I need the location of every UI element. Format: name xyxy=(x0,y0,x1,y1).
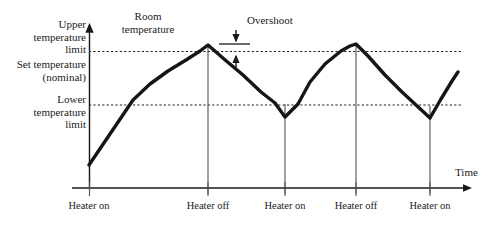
x-tick-label-5: Heater on xyxy=(409,200,450,213)
x-tick-label-2: Heater off xyxy=(187,200,230,213)
set-temperature-label: Set temperature (nominal) xyxy=(0,58,86,83)
upper-limit-line-3: limit xyxy=(0,43,86,56)
lower-limit-line-1: Lower xyxy=(0,93,86,106)
x-tick-label-1: Heater on xyxy=(68,200,109,213)
set-temperature-line-2: (nominal) xyxy=(0,71,86,84)
lower-temperature-limit-label: Lower temperature limit xyxy=(0,93,86,131)
y-axis-title-line-1: Room xyxy=(96,10,200,23)
upper-limit-line-2: temperature xyxy=(0,31,86,44)
set-temperature-line-1: Set temperature xyxy=(0,58,86,71)
lower-limit-line-2: temperature xyxy=(0,106,86,119)
x-tick-label-3: Heater on xyxy=(264,200,305,213)
x-tick-label-4: Heater off xyxy=(335,200,378,213)
x-axis-title: Time xyxy=(455,166,478,179)
upper-limit-line-1: Upper xyxy=(0,18,86,31)
y-axis-title-line-2: temperature xyxy=(96,23,200,36)
thermostat-hysteresis-figure: Upper temperature limit Set temperature … xyxy=(0,0,495,227)
lower-limit-line-3: limit xyxy=(0,118,86,131)
overshoot-label: Overshoot xyxy=(247,14,293,27)
y-axis-title: Room temperature xyxy=(96,10,200,35)
upper-temperature-limit-label: Upper temperature limit xyxy=(0,18,86,56)
